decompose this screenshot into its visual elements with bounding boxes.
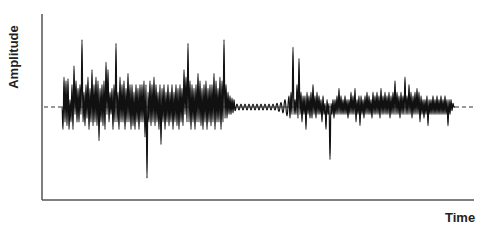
x-axis-label: Time: [445, 210, 475, 225]
signal-line: [62, 40, 455, 179]
y-axis-label-text: Amplitude: [6, 25, 21, 89]
y-axis-label: Amplitude: [6, 12, 20, 102]
waveform-chart: [0, 0, 491, 229]
